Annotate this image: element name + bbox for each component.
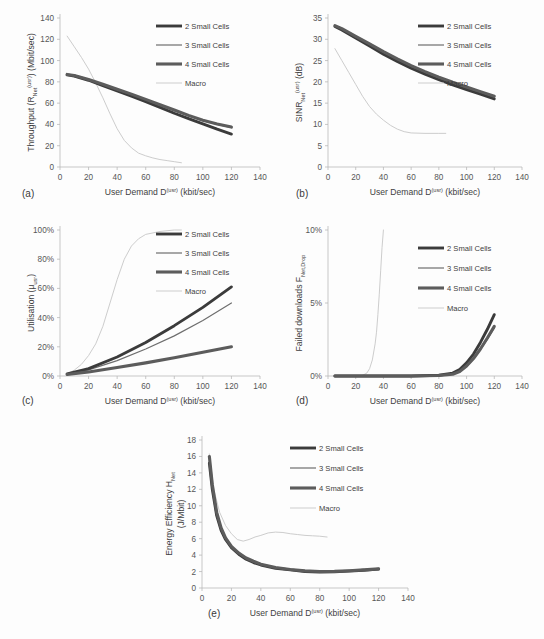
y-tick-label: 35 [313,14,323,23]
y-tick-label: 10 [313,120,323,129]
y-tick-label: 10 [187,502,197,511]
y-axis-title-b: SINRNet(usr) (dB) [294,63,306,123]
legend-label: 4 Small Cells [319,484,364,493]
chart-svg-c: 0%20%40%60%80%100%020406080100120140User… [4,212,276,420]
y-axis-title-line2-e: (J/Mbit) [176,500,186,529]
y-tick-label: 6 [191,535,196,544]
x-tick-label: 80 [434,382,444,391]
legend-label: 4 Small Cells [185,268,230,277]
series-line [335,49,446,134]
x-tick-label: 80 [170,173,180,182]
x-tick-label: 120 [487,173,501,182]
y-tick-label: 5% [310,299,322,308]
panel-tag-e: (e) [208,608,220,619]
x-tick-label: 100 [460,382,474,391]
legend-label: 2 Small Cells [185,22,230,31]
y-tick-label: 15 [313,99,323,108]
x-axis-title-c: User Demand D(usr) (kbit/sec) [105,396,215,406]
y-tick-label: 0 [317,163,322,172]
y-tick-label: 12 [187,485,197,494]
x-tick-label: 80 [170,382,180,391]
y-tick-label: 60% [38,284,54,293]
x-tick-label: 100 [196,173,210,182]
x-tick-label: 0 [326,382,331,391]
series-line [209,456,378,571]
series-line [335,328,494,376]
legend-label: 3 Small Cells [447,41,492,50]
y-tick-label: 18 [187,436,197,445]
y-tick-label: 25 [313,57,323,66]
series-line [358,230,383,376]
panel-tag-a: (a) [22,188,34,199]
x-tick-label: 0 [58,382,63,391]
x-tick-label: 80 [315,594,325,603]
x-tick-label: 0 [200,594,205,603]
y-tick-label: 30 [313,35,323,44]
legend-label: 2 Small Cells [185,230,230,239]
y-tick-label: 20 [45,142,55,151]
x-tick-label: 140 [515,173,529,182]
x-tick-label: 100 [460,173,474,182]
chart-svg-e: 024681012141618020406080100120140User De… [136,424,426,632]
y-tick-label: 4 [191,551,196,560]
legend-label: 3 Small Cells [319,464,364,473]
legend-label: 3 Small Cells [185,249,230,258]
y-tick-label: 0 [49,163,54,172]
x-tick-label: 40 [113,173,123,182]
legend-label: 4 Small Cells [447,60,492,69]
x-axis-title-e: User Demand D(usr) (kbit/sec) [250,608,360,618]
legend-label: 4 Small Cells [185,60,230,69]
y-tick-label: 120 [40,35,54,44]
x-tick-label: 140 [515,382,529,391]
series-line [209,460,378,572]
x-tick-label: 80 [434,173,444,182]
y-tick-label: 2 [191,568,196,577]
x-tick-label: 100 [342,594,356,603]
y-tick-label: 8 [191,518,196,527]
y-tick-label: 40 [45,120,55,129]
x-tick-label: 40 [256,594,266,603]
x-tick-label: 60 [286,594,296,603]
figure-root: 020406080100120140020406080100120140User… [0,0,544,639]
x-tick-label: 0 [58,173,63,182]
y-tick-label: 0% [310,372,322,381]
y-tick-label: 100% [33,226,54,235]
y-tick-label: 0% [42,372,54,381]
x-tick-label: 120 [372,594,386,603]
y-tick-label: 20% [38,343,54,352]
x-axis-title-a: User Demand D(usr) (kbit/sec) [105,187,215,197]
y-tick-label: 80% [38,255,54,264]
y-axis-title-d: Failed downloads FNet,Drop [294,255,306,352]
chart-panel-e: 024681012141618020406080100120140User De… [136,424,426,632]
legend-label: Macro [447,79,468,88]
x-tick-label: 20 [84,173,94,182]
y-tick-label: 100 [40,57,54,66]
x-axis-title-d: User Demand D(usr) (kbit/sec) [370,396,480,406]
legend-label: Macro [185,79,206,88]
x-tick-label: 60 [141,173,151,182]
series-line [335,326,494,376]
legend-label: Macro [185,287,206,296]
chart-svg-d: 0%5%10%020406080100120140User Demand D(u… [276,212,540,420]
x-tick-label: 140 [253,382,267,391]
chart-svg-a: 020406080100120140020406080100120140User… [4,4,276,209]
x-tick-label: 20 [351,382,361,391]
x-tick-label: 140 [253,173,267,182]
x-tick-label: 120 [225,382,239,391]
legend-label: 2 Small Cells [447,22,492,31]
y-tick-label: 5 [317,142,322,151]
y-tick-label: 80 [45,78,55,87]
x-tick-label: 140 [401,594,415,603]
panel-tag-c: (c) [22,395,34,406]
x-tick-label: 20 [84,382,94,391]
series-line [67,36,181,163]
legend-label: 2 Small Cells [319,444,364,453]
chart-svg-b: 05101520253035020406080100120140User Dem… [276,4,540,209]
x-tick-label: 60 [141,382,151,391]
panel-tag-b: (b) [296,188,308,199]
y-axis-title-a: Throughput (RNet(usr)) (Mbit/sec) [26,33,38,152]
y-tick-label: 140 [40,14,54,23]
x-tick-label: 20 [351,173,361,182]
panel-tag-d: (d) [296,395,308,406]
legend-label: 3 Small Cells [447,264,492,273]
